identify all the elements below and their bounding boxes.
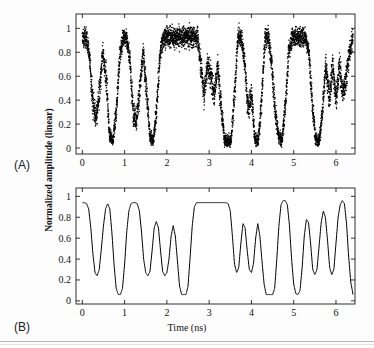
scatter-point (346, 90, 347, 91)
scatter-point (351, 46, 352, 47)
scatter-point (113, 140, 114, 141)
scatter-point (331, 84, 332, 85)
scatter-point (326, 66, 327, 67)
scatter-point (145, 72, 146, 73)
scatter-point (173, 37, 174, 38)
scatter-point (219, 99, 220, 100)
scatter-point (286, 79, 287, 80)
scatter-point (235, 78, 236, 79)
scatter-point (98, 105, 99, 106)
scatter-point (342, 79, 343, 80)
scatter-point (250, 92, 251, 93)
scatter-point (229, 145, 230, 146)
scatter-point (152, 137, 153, 138)
scatter-point (329, 100, 330, 101)
scatter-point (232, 123, 233, 124)
scatter-point (300, 45, 301, 46)
scatter-point (83, 40, 84, 41)
scatter-point (170, 26, 171, 27)
scatter-point (271, 63, 272, 64)
scatter-point (312, 102, 313, 103)
scatter-point (90, 71, 91, 72)
scatter-point (191, 36, 192, 37)
scatter-point (129, 54, 130, 55)
scatter-point (273, 91, 274, 92)
scatter-point (197, 30, 198, 31)
scatter-point (98, 81, 99, 82)
scatter-point (336, 103, 337, 104)
scatter-point (216, 82, 217, 83)
scatter-point (253, 116, 254, 117)
scatter-point (107, 93, 108, 94)
scatter-point (155, 120, 156, 121)
scatter-point (294, 41, 295, 42)
scatter-point (105, 72, 106, 73)
scatter-point (213, 75, 214, 76)
scatter-point (236, 60, 237, 61)
scatter-point (92, 109, 93, 110)
scatter-point (260, 122, 261, 123)
scatter-point (333, 68, 334, 69)
scatter-point (253, 121, 254, 122)
x-tick-label: 5 (291, 307, 296, 318)
scatter-point (168, 30, 169, 31)
scatter-point (272, 87, 273, 88)
scatter-point (147, 88, 148, 89)
scatter-point (156, 113, 157, 114)
scatter-point (335, 98, 336, 99)
scatter-point (340, 73, 341, 74)
scatter-point (287, 80, 288, 81)
scatter-point (302, 43, 303, 44)
scatter-point (297, 44, 298, 45)
scatter-point (296, 26, 297, 27)
scatter-point (221, 104, 222, 105)
scatter-point (130, 69, 131, 70)
scatter-point (348, 64, 349, 65)
scatter-point (311, 99, 312, 100)
scatter-point (280, 129, 281, 130)
scatter-point (285, 105, 286, 106)
y-tick-label: 0 (66, 295, 71, 306)
scatter-point (244, 60, 245, 61)
scatter-point (244, 56, 245, 57)
scatter-point (150, 134, 151, 135)
scatter-point (167, 27, 168, 28)
scatter-point (313, 112, 314, 113)
scatter-point (231, 137, 232, 138)
scatter-point (313, 114, 314, 115)
y-axis-label: Normalized amplitude (linear) (44, 75, 54, 265)
scatter-point (321, 125, 322, 126)
scatter-point (174, 49, 175, 50)
scatter-point (243, 45, 244, 46)
scatter-point (239, 40, 240, 41)
scatter-point (133, 106, 134, 107)
scatter-point (145, 67, 146, 68)
scatter-point (216, 87, 217, 88)
scatter-point (320, 118, 321, 119)
x-tick-label: 3 (207, 157, 212, 168)
scatter-point (270, 45, 271, 46)
scatter-point (200, 52, 201, 53)
scatter-point (146, 83, 147, 84)
scatter-point (327, 75, 328, 76)
scatter-point (270, 51, 271, 52)
scatter-point (130, 76, 131, 77)
scatter-point (342, 81, 343, 82)
scatter-point (336, 108, 337, 109)
scatter-point (226, 135, 227, 136)
scatter-point (272, 79, 273, 80)
scatter-point (148, 108, 149, 109)
scatter-point (134, 118, 135, 119)
scatter-point (118, 83, 119, 84)
scatter-point (253, 111, 254, 112)
scatter-point (265, 41, 266, 42)
scatter-point (338, 75, 339, 76)
scatter-point (272, 72, 273, 73)
scatter-point (96, 115, 97, 116)
scatter-point (130, 77, 131, 78)
scatter-point (127, 43, 128, 44)
scatter-point (228, 136, 229, 137)
scatter-point (260, 108, 261, 109)
scatter-point (97, 109, 98, 110)
scatter-point (238, 22, 239, 23)
